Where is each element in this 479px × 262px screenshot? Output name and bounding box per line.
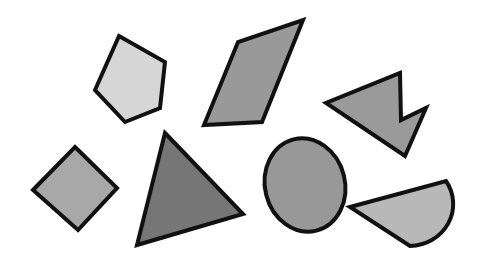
shapes-figure: [0, 0, 479, 262]
shapes-canvas: [0, 0, 479, 262]
